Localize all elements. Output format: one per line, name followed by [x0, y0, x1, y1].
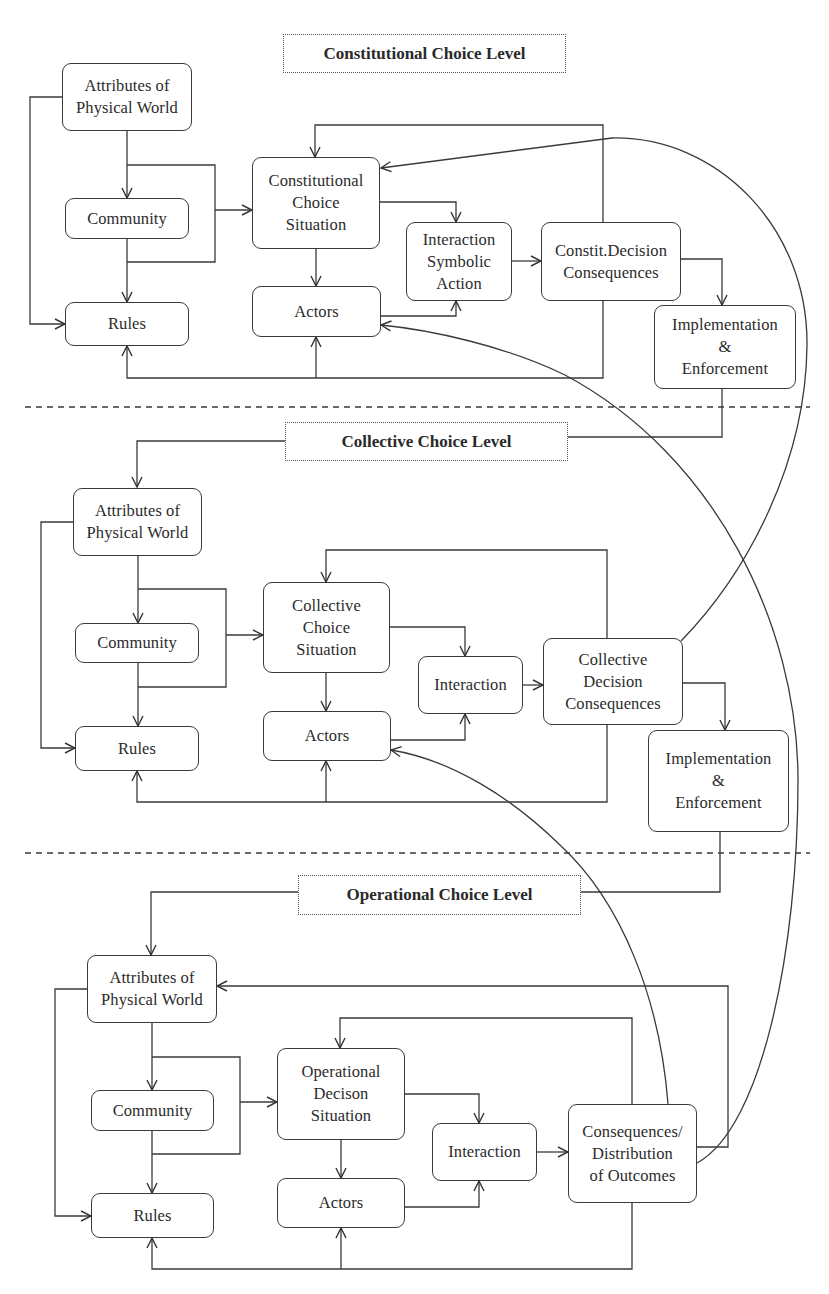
collective-consequences-box: Collective Decision Consequences	[543, 638, 683, 725]
collective-rules-box: Rules	[75, 726, 199, 771]
constitutional-interaction-box: Interaction Symbolic Action	[406, 222, 512, 301]
collective-implementation-box: Implementation & Enforcement	[648, 730, 789, 832]
operational-community-box: Community	[91, 1090, 214, 1131]
constitutional-attributes-box: Attributes of Physical World	[62, 63, 192, 131]
collective-interaction-box: Interaction	[418, 656, 523, 714]
collective-attributes-box: Attributes of Physical World	[73, 488, 202, 556]
constitutional-level-label: Constitutional Choice Level	[283, 34, 566, 73]
operational-consequences-box: Consequences/ Distribution of Outcomes	[568, 1104, 697, 1203]
curve-operational-to-collective-actors	[391, 750, 668, 1104]
operational-actors-box: Actors	[277, 1178, 405, 1228]
operational-interaction-box: Interaction	[432, 1123, 537, 1181]
constitutional-community-box: Community	[65, 198, 189, 239]
operational-situation-box: Operational Decison Situation	[277, 1048, 405, 1140]
constitutional-rules-box: Rules	[65, 302, 189, 346]
curve-collective-to-constitutional-situation	[381, 138, 807, 641]
operational-level-label: Operational Choice Level	[298, 875, 581, 915]
constitutional-implementation-box: Implementation & Enforcement	[654, 305, 796, 389]
collective-situation-box: Collective Choice Situation	[263, 582, 390, 673]
constitutional-situation-box: Constitutional Choice Situation	[252, 157, 380, 249]
collective-level-label: Collective Choice Level	[285, 422, 568, 461]
collective-community-box: Community	[75, 623, 199, 663]
institutional-analysis-diagram: Constitutional Choice Level Attributes o…	[0, 0, 829, 1294]
constitutional-actors-box: Actors	[252, 286, 381, 337]
operational-rules-box: Rules	[91, 1193, 214, 1238]
collective-actors-box: Actors	[263, 711, 391, 761]
operational-attributes-box: Attributes of Physical World	[87, 955, 217, 1023]
constitutional-consequences-box: Constit.Decision Consequences	[541, 222, 681, 301]
